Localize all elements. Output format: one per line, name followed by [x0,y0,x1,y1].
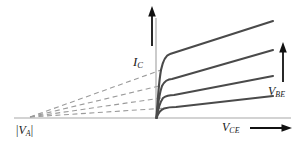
y-axis-label: IC [133,55,143,68]
curve-4-lowest-vbe [157,96,274,118]
early-voltage-label: |VA| [16,124,33,136]
early-voltage-bar-close: | [31,123,33,137]
vbe-up-arrow [279,42,287,82]
dashed-extrapolation-group [30,70,167,117]
family-label-sub: BE [275,90,285,99]
ic-up-arrow [148,6,156,46]
x-axis-label: VCE [222,121,240,133]
figure-canvas: IC |VA| VCE VBE [0,0,303,144]
collector-curve-group [157,21,274,118]
vce-right-arrow [250,124,292,132]
x-axis-label-sub: CE [229,126,239,135]
y-axis-label-sub: C [137,60,143,70]
figure-svg [0,0,303,144]
early-voltage-main: V [18,123,25,137]
family-parameter-label: VBE [268,85,285,97]
early-voltage-sub: A [26,129,31,138]
